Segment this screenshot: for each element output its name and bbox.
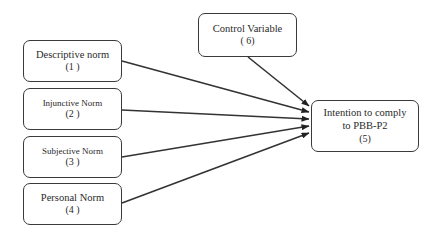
node-label: Injunctive Norm [43,98,103,109]
node-control-variable: Control Variable ( 6) [198,13,297,57]
diagram-canvas: Descriptive norm (1 ) Injunctive Norm (2… [0,0,434,238]
edge-1-to-5 [122,61,309,112]
node-descriptive-norm: Descriptive norm (1 ) [23,40,122,82]
node-number: ( 6) [240,35,254,47]
edge-4-to-5 [122,133,309,203]
node-label: Subjective Norm [42,146,103,157]
node-number: (4 ) [65,204,79,216]
node-label: Personal Norm [41,192,104,205]
node-intention-to-comply: Intention to comply to PBB-P2 (5) [311,100,419,152]
node-personal-norm: Personal Norm (4 ) [23,183,122,225]
node-number: (3 ) [65,156,79,168]
node-number: (2 ) [65,108,79,120]
node-label: Control Variable [213,23,283,36]
node-number: (5) [359,133,371,145]
node-label-line2: to PBB-P2 [342,120,387,133]
node-subjective-norm: Subjective Norm (3 ) [23,136,122,178]
node-label-line1: Intention to comply [324,107,407,120]
edge-3-to-5 [122,126,309,157]
node-label: Descriptive norm [36,49,109,62]
edge-2-to-5 [122,110,309,119]
node-number: (1 ) [65,61,79,73]
node-injunctive-norm: Injunctive Norm (2 ) [23,88,122,130]
